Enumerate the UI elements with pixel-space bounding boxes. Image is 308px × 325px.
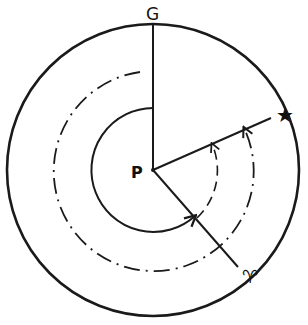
dashed-arc <box>197 144 217 218</box>
radius-to-aries <box>153 170 238 267</box>
inner-solid-arc <box>91 108 195 232</box>
center-point <box>151 168 155 172</box>
aries-icon: ♈ <box>242 266 258 287</box>
label-p: P <box>131 163 143 182</box>
label-g: G <box>146 4 159 24</box>
diagram-canvas: G P ★ ♈ <box>0 0 308 325</box>
star-icon: ★ <box>276 103 294 127</box>
